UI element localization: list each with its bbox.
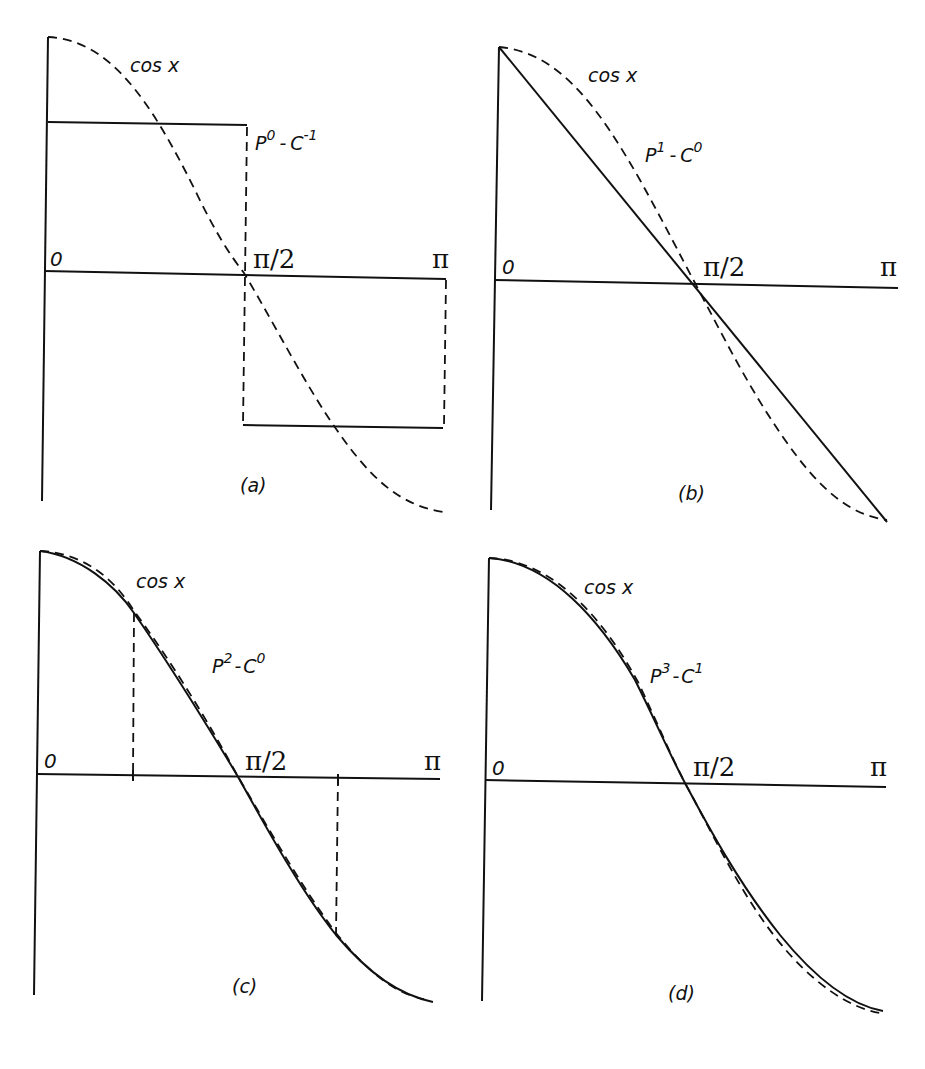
panel-caption: (d) [668,982,695,1004]
y-axis [34,551,40,995]
tick-zero: 0 [44,749,57,773]
figure-canvas: cos x P0-C-1 0 π/2 π (a) cos x P1-C0 0 π… [0,0,925,1069]
element-break-2 [336,777,338,935]
tick-pi-half: π/2 [253,244,295,274]
linear-approx [499,47,887,522]
panel-c: cos x P2-C0 0 π/2 π (c) [34,551,441,1002]
panel-caption: (a) [240,474,266,496]
element-break-1 [133,613,134,777]
tick-pi: π [424,746,441,776]
tick-zero: 0 [492,756,505,780]
tick-zero: 0 [502,255,515,279]
panel-a: cos x P0-C-1 0 π/2 π (a) [42,37,449,512]
step-end-dash [444,280,446,426]
y-axis [42,37,48,501]
tick-pi-half: π/2 [693,752,735,782]
cos-curve [48,37,443,512]
approx-label: P1-C0 [645,139,703,166]
tick-pi-half: π/2 [703,252,745,282]
tick-pi: π [432,244,449,274]
cos-label: cos x [130,54,180,76]
panel-d: cos x P3-C1 0 π/2 π (d) [482,558,887,1013]
tick-zero: 0 [50,247,63,271]
approx-upper-step [48,122,247,125]
cos-label: cos x [584,576,634,598]
y-axis [491,47,499,510]
tick-pi-half: π/2 [245,746,287,776]
panel-caption: (b) [678,482,705,504]
approx-label: P0-C-1 [255,127,318,154]
cos-label: cos x [588,64,638,86]
tick-pi: π [880,252,897,282]
approx-label: P2-C0 [212,650,266,677]
approx-label: P3-C1 [650,660,703,687]
approx-lower-step [243,425,443,428]
panel-b: cos x P1-C0 0 π/2 π (b) [491,47,898,522]
panel-caption: (c) [232,975,257,997]
cos-label: cos x [136,570,186,592]
tick-pi: π [870,752,887,782]
